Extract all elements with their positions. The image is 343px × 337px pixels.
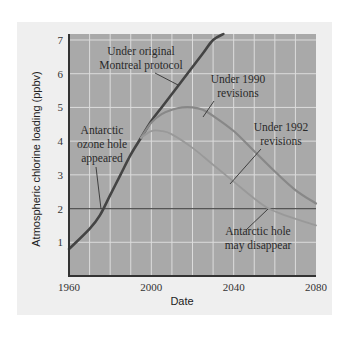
annotation-text: Montreal protocol — [99, 59, 182, 72]
y-axis-label: Atmospheric chlorine loading (ppbv) — [30, 71, 42, 246]
x-tick-labels: 1960200020402080 — [58, 281, 328, 293]
annotation-text: Under 1992 — [254, 121, 309, 133]
annotation-text: may disappear — [225, 239, 292, 252]
x-tick-label: 2040 — [223, 281, 246, 293]
annotation-text: Antarctic — [81, 124, 124, 136]
annotation-text: revisions — [217, 87, 259, 99]
chlorine-chart: 1234567 1960200020402080 Atmospheric chl… — [0, 0, 343, 337]
annotation-ozone-hole-appeared: Antarctic ozone hole appeared — [77, 124, 127, 165]
y-tick-label: 7 — [58, 34, 64, 46]
annotation-hole-may-disappear: Antarctic hole may disappear — [225, 225, 292, 252]
y-tick-label: 5 — [58, 101, 64, 113]
annotation-text: ozone hole — [77, 138, 127, 150]
annotation-text: revisions — [260, 135, 302, 147]
annotation-text: Under 1990 — [211, 73, 266, 85]
annotation-text: Antarctic hole — [225, 225, 290, 237]
annotation-original-protocol: Under original Montreal protocol — [99, 45, 182, 72]
annotation-text: appeared — [81, 152, 123, 165]
x-axis-label: Date — [170, 295, 193, 307]
y-tick-label: 3 — [58, 169, 64, 181]
annotation-text: Under original — [107, 45, 174, 58]
y-tick-label: 1 — [58, 236, 64, 248]
y-tick-labels: 1234567 — [58, 34, 64, 248]
x-tick-label: 1960 — [58, 281, 81, 293]
y-tick-label: 6 — [58, 68, 64, 80]
x-tick-label: 2000 — [140, 281, 163, 293]
y-tick-label: 4 — [58, 135, 64, 147]
y-tick-label: 2 — [58, 203, 64, 215]
x-tick-label: 2080 — [305, 281, 328, 293]
